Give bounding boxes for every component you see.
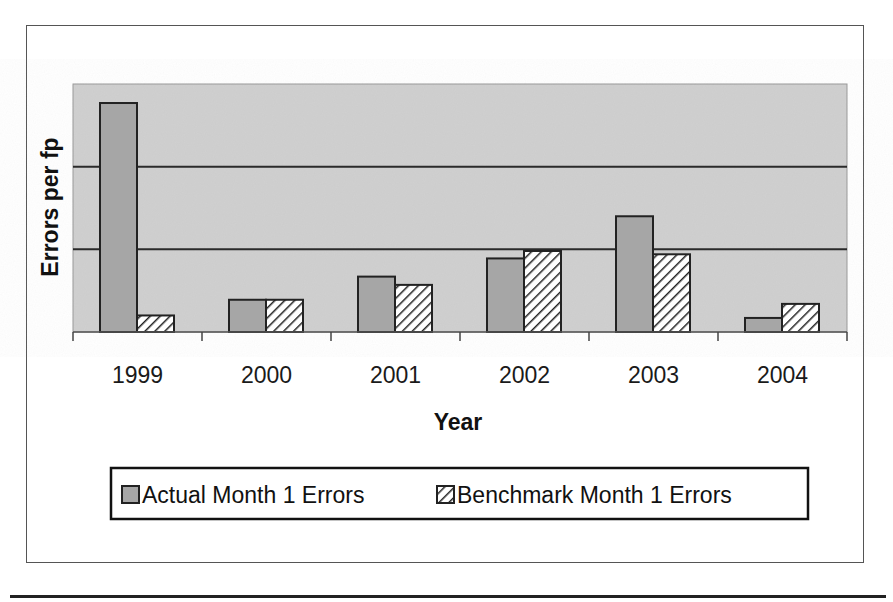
x-tick-labels: 199920002001200220032004	[112, 362, 808, 388]
x-tick-label: 2002	[499, 362, 550, 388]
legend-swatch-actual	[122, 486, 139, 503]
bar-benchmark-2003	[653, 254, 690, 332]
bar-benchmark-2004	[782, 304, 819, 332]
y-axis-title: Errors per fp	[37, 137, 63, 276]
chart: 199920002001200220032004 Errors per fp Y…	[0, 0, 893, 602]
x-tick-label: 2004	[757, 362, 808, 388]
legend-label-actual: Actual Month 1 Errors	[142, 482, 364, 508]
bar-actual-2000	[229, 300, 266, 332]
legend-swatch-benchmark	[437, 486, 454, 503]
bar-actual-2001	[358, 277, 395, 332]
bar-benchmark-1999	[137, 315, 174, 332]
bar-actual-2004	[745, 318, 782, 332]
bar-benchmark-2001	[395, 285, 432, 332]
x-tick-label: 2000	[241, 362, 292, 388]
x-tick-label: 1999	[112, 362, 163, 388]
bar-actual-1999	[100, 103, 137, 332]
plot-area	[73, 84, 847, 332]
legend-label-benchmark: Benchmark Month 1 Errors	[457, 482, 732, 508]
x-tick-label: 2001	[370, 362, 421, 388]
bar-actual-2002	[487, 258, 524, 332]
axes	[73, 332, 847, 341]
x-axis-title: Year	[434, 409, 483, 435]
legend: Actual Month 1 Errors Benchmark Month 1 …	[111, 468, 808, 519]
bar-benchmark-2000	[266, 300, 303, 332]
x-tick-label: 2003	[628, 362, 679, 388]
bar-actual-2003	[616, 216, 653, 332]
bar-benchmark-2002	[524, 251, 561, 332]
